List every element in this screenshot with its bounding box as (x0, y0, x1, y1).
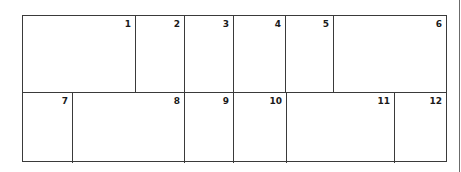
cell-number: 5 (323, 20, 329, 29)
grid-cell-5: 5 (286, 16, 334, 92)
grid-cell-11: 11 (287, 93, 395, 163)
grid-row-bottom: 7 8 9 10 11 12 (23, 92, 446, 163)
cell-number: 2 (174, 20, 180, 29)
cell-number: 7 (62, 97, 68, 106)
cell-number: 12 (429, 97, 442, 106)
grid-cell-6: 6 (334, 16, 446, 92)
page-edge-line (459, 0, 460, 172)
numbered-grid: 1 2 3 4 5 6 7 8 9 10 11 (22, 15, 447, 162)
grid-cell-2: 2 (136, 16, 185, 92)
cell-number: 4 (275, 20, 281, 29)
cell-number: 11 (377, 97, 390, 106)
cell-number: 6 (436, 20, 442, 29)
cell-number: 3 (223, 20, 229, 29)
grid-cell-4: 4 (234, 16, 286, 92)
grid-cell-7: 7 (23, 93, 73, 163)
grid-cell-1: 1 (23, 16, 136, 92)
cell-number: 8 (174, 97, 180, 106)
cell-number: 9 (223, 97, 229, 106)
grid-cell-3: 3 (185, 16, 234, 92)
grid-cell-8: 8 (73, 93, 185, 163)
grid-row-top: 1 2 3 4 5 6 (23, 16, 446, 92)
grid-cell-10: 10 (234, 93, 287, 163)
grid-cell-12: 12 (395, 93, 446, 163)
cell-number: 10 (269, 97, 282, 106)
cell-number: 1 (125, 20, 131, 29)
grid-cell-9: 9 (185, 93, 234, 163)
